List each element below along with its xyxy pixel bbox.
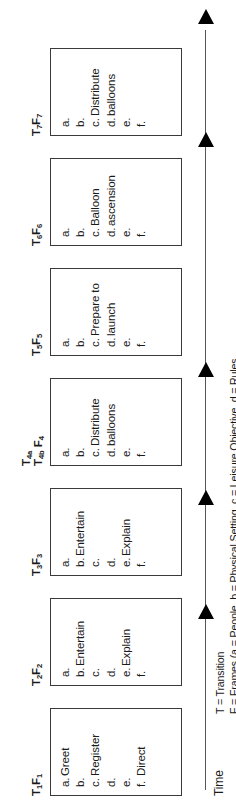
frame-item: d. xyxy=(104,496,119,567)
item-letter: f. xyxy=(134,336,149,347)
item-letter: e. xyxy=(119,556,134,567)
item-text: Prepare to xyxy=(89,283,101,336)
frame-label-f2: T2F2 xyxy=(30,664,42,686)
item-letter: a. xyxy=(58,666,73,677)
t-subscript-f1: 1 xyxy=(35,785,44,789)
item-letter: c. xyxy=(88,116,103,127)
item-letter: e. xyxy=(119,116,134,127)
item-letter: b. xyxy=(73,336,88,347)
item-letter: a. xyxy=(58,336,73,347)
item-letter: d. xyxy=(104,336,119,347)
item-letter: a. xyxy=(58,116,73,127)
frame-item: d.balloons xyxy=(104,386,119,457)
frame-item: c.Distribute xyxy=(88,56,103,127)
legend-line-transition: T = Transition xyxy=(214,359,228,714)
frame-item: e. xyxy=(119,716,134,787)
frame-item: e. xyxy=(119,166,134,237)
item-text: Register xyxy=(89,734,101,776)
frame-box-f3[interactable]: a. b.Entertain c. d. e.Explain f. xyxy=(50,488,182,576)
legend: T = Transition F = Frames (a = People, b… xyxy=(214,359,236,714)
item-letter: f. xyxy=(134,776,149,787)
frame-box-f6[interactable]: a. b. c.Balloon d.ascension e. f. xyxy=(50,158,182,246)
item-letter: b. xyxy=(73,776,88,787)
frame-item: c.Distribute xyxy=(88,386,103,457)
frame-item: c.Register xyxy=(88,716,103,787)
frame-item: c.Prepare to xyxy=(88,276,103,347)
frame-item: a. xyxy=(58,276,73,347)
frame-item: b. xyxy=(73,56,88,127)
frame-item: f. xyxy=(134,56,149,127)
f-subscript-f7: 7 xyxy=(35,114,44,118)
frame-box-f7[interactable]: a. b. c.Distribute d.balloons e. f. xyxy=(50,48,182,136)
frame-box-f5[interactable]: a. b. c.Prepare to d.launch e. f. xyxy=(50,268,182,356)
item-text: Greet xyxy=(59,748,71,776)
frame-item: f. xyxy=(134,606,149,677)
frame-box-f1[interactable]: a.Greet b. c.Register d. e. f.Direct xyxy=(50,708,182,796)
item-letter: c. xyxy=(88,446,103,457)
frame-item: c. xyxy=(88,606,103,677)
frame-item: d.launch xyxy=(104,276,119,347)
item-letter: b. xyxy=(73,556,88,567)
frame-item: b. xyxy=(73,386,88,457)
item-letter: a. xyxy=(58,776,73,787)
frame-item: d. xyxy=(104,606,119,677)
frame-label-f5: T5F5 xyxy=(30,334,42,356)
f-subscript-f2: 2 xyxy=(35,664,44,668)
frame-item: f. xyxy=(134,166,149,237)
item-letter: b. xyxy=(73,666,88,677)
f-subscript-f3: 3 xyxy=(35,554,44,558)
f-subscript-f1: 1 xyxy=(35,774,44,778)
frame-item: d. xyxy=(104,716,119,787)
item-letter: d. xyxy=(104,776,119,787)
frame-item: c.Balloon xyxy=(88,166,103,237)
frame-item: a. xyxy=(58,166,73,237)
frame-item: a. xyxy=(58,56,73,127)
frame-box-f2[interactable]: a. b.Entertain c. d. e.Explain f. xyxy=(50,598,182,686)
t-subscript-f4a: 4a xyxy=(25,451,34,459)
time-axis-label: Time xyxy=(212,770,226,796)
t-subscript-f6: 6 xyxy=(35,235,44,239)
item-letter: d. xyxy=(104,446,119,457)
frame-item: e. xyxy=(119,386,134,457)
item-text: Explain xyxy=(120,519,132,556)
f-subscript-f4: 4 xyxy=(37,436,46,440)
item-letter: b. xyxy=(73,226,88,237)
item-letter: a. xyxy=(58,446,73,457)
item-continuation: ascension xyxy=(105,175,117,226)
frame-item: b. xyxy=(73,276,88,347)
frame-item: b.Entertain xyxy=(73,606,88,677)
frame-label-f4: T4a T4b F4 xyxy=(20,436,44,466)
frame-item: d.ascension xyxy=(104,166,119,237)
f-subscript-f6: 6 xyxy=(35,224,44,228)
frame-item: e. xyxy=(119,276,134,347)
t-subscript-f7: 7 xyxy=(35,125,44,129)
frame-item: a. xyxy=(58,496,73,567)
item-letter: c. xyxy=(88,666,103,677)
frame-box-f4[interactable]: a. b. c.Distribute d.balloons e. f. xyxy=(50,378,182,466)
item-letter: e. xyxy=(119,776,134,787)
frame-item: c. xyxy=(88,496,103,567)
item-text: Entertain xyxy=(74,511,86,556)
frame-item: e.Explain xyxy=(119,496,134,567)
frame-label-f7: T7F7 xyxy=(30,114,42,136)
frame-item: a. xyxy=(58,606,73,677)
item-text: Explain xyxy=(120,629,132,666)
frame-item: b. xyxy=(73,716,88,787)
item-letter: d. xyxy=(104,556,119,567)
item-text: Direct xyxy=(135,747,147,776)
item-letter: d. xyxy=(104,116,119,127)
item-letter: f. xyxy=(134,116,149,127)
item-letter: d. xyxy=(104,226,119,237)
t-subscript-f4b: 4b xyxy=(37,450,46,459)
t-subscript-f2: 2 xyxy=(35,675,44,679)
transition-arrow-3 xyxy=(198,362,214,377)
frame-label-f3: T3F3 xyxy=(30,554,42,576)
transition-arrow-2 xyxy=(198,490,214,505)
frame-item: f. xyxy=(134,496,149,567)
item-text: Entertain xyxy=(74,621,86,666)
item-letter: e. xyxy=(119,446,134,457)
frame-item: d.balloons xyxy=(104,56,119,127)
frames-row: T1F1 a.Greet b. c.Register d. e. f.Direc… xyxy=(0,0,236,802)
item-letter: e. xyxy=(119,666,134,677)
item-text: Distribute xyxy=(89,68,101,116)
